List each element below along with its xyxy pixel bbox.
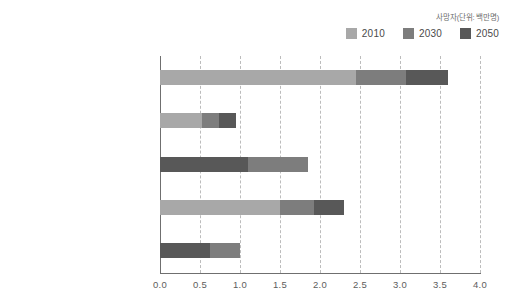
- bar-row: 지상오존: [160, 102, 480, 140]
- legend-swatch-icon: [346, 28, 357, 39]
- x-tick-label: 2.0: [313, 279, 327, 290]
- x-axis-line: [160, 273, 481, 274]
- bar-segment-2030: [280, 200, 314, 215]
- x-tick-label: 1.0: [233, 279, 247, 290]
- bar-segment-2050: [406, 70, 448, 85]
- legend-item-2030[interactable]: 2030: [403, 28, 442, 39]
- bar-segment-2050: [160, 243, 210, 258]
- legend-label: 2010: [362, 28, 385, 39]
- stacked-bar[interactable]: [160, 243, 240, 258]
- bar-segment-2010: [160, 70, 356, 85]
- legend-label: 2030: [419, 28, 442, 39]
- bar-segment-2010: [160, 113, 202, 128]
- stacked-bar[interactable]: [160, 157, 308, 172]
- bar-segment-2050: [160, 157, 248, 172]
- chart-unit-label: 사망자(단위: 백만명): [436, 11, 499, 22]
- stacked-bar[interactable]: [160, 200, 344, 215]
- legend-swatch-icon: [460, 28, 471, 39]
- x-tick-label: 3.5: [433, 279, 447, 290]
- x-tick-label: 4.0: [473, 279, 487, 290]
- legend-item-2010[interactable]: 2010: [346, 28, 385, 39]
- x-tick-label: 1.5: [273, 279, 287, 290]
- chart-legend: 201020302050: [346, 28, 499, 39]
- bar-row: 미세먼지: [160, 59, 480, 97]
- chart-container: 사망자(단위: 백만명) 201020302050 미세먼지지상오존안전하지 않…: [0, 0, 511, 308]
- x-tick-label: 3.0: [393, 279, 407, 290]
- legend-swatch-icon: [403, 28, 414, 39]
- bar-segment-2010: [160, 200, 280, 215]
- x-tick-label: 0.0: [153, 279, 167, 290]
- bar-row: 말라리아: [160, 232, 480, 270]
- bar-segment-2050: [219, 113, 236, 128]
- bar-segment-2050: [314, 200, 344, 215]
- bar-segment-2030: [248, 157, 308, 172]
- legend-item-2050[interactable]: 2050: [460, 28, 499, 39]
- bar-segment-2030: [202, 113, 220, 128]
- bar-segment-2030: [356, 70, 406, 85]
- x-tick-label: 2.5: [353, 279, 367, 290]
- gridline: [480, 56, 481, 273]
- legend-label: 2050: [476, 28, 499, 39]
- x-tick-label: 0.5: [193, 279, 207, 290]
- stacked-bar[interactable]: [160, 113, 236, 128]
- plot-area: 미세먼지지상오존안전하지 않은 물 공급과 위생실내 공기 오염말라리아: [160, 56, 480, 273]
- stacked-bar[interactable]: [160, 70, 448, 85]
- bar-segment-2030: [210, 243, 240, 258]
- bar-row: 안전하지 않은 물 공급과 위생: [160, 146, 480, 184]
- bar-row: 실내 공기 오염: [160, 189, 480, 227]
